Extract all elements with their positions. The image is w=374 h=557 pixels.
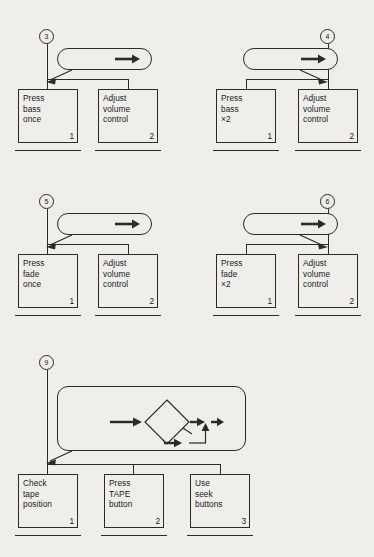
- task-box[interactable]: Use seek buttons 3: [190, 474, 250, 528]
- child-drop-line-3: [220, 464, 221, 474]
- task-label: Press fade ×2: [221, 258, 242, 290]
- task-number: 2: [155, 516, 160, 526]
- terminal-underline: [95, 150, 161, 151]
- terminal-underline: [213, 150, 279, 151]
- task-number: 1: [69, 516, 74, 526]
- parent-stem-line: [47, 370, 48, 474]
- spreader-line: [47, 79, 129, 80]
- terminal-underline: [295, 150, 361, 151]
- node-marker-9: 9: [39, 355, 54, 370]
- task-number: 1: [267, 296, 272, 306]
- plan-balloon: [243, 213, 338, 235]
- task-label: Press TAPE button: [109, 478, 132, 510]
- task-box[interactable]: Adjust volume control 2: [98, 89, 158, 143]
- terminal-underline: [295, 315, 361, 316]
- task-box[interactable]: Press bass once 1: [18, 89, 78, 143]
- task-label: Press bass ×2: [221, 93, 242, 125]
- plan-balloon: [57, 386, 246, 451]
- spreader-line: [246, 244, 328, 245]
- task-number: 1: [69, 131, 74, 141]
- terminal-underline: [95, 315, 161, 316]
- task-box[interactable]: Press fade once 1: [18, 254, 78, 308]
- plan-balloon: [57, 48, 152, 70]
- task-number: 3: [241, 516, 246, 526]
- task-label: Adjust volume control: [103, 93, 130, 125]
- child-drop-line-1: [246, 79, 247, 89]
- node-marker-6: 6: [320, 194, 335, 209]
- task-number: 2: [149, 131, 154, 141]
- parent-stem-line: [47, 44, 48, 89]
- task-label: Adjust volume control: [303, 93, 330, 125]
- child-drop-line-1: [246, 244, 247, 254]
- node-marker-5: 5: [39, 194, 54, 209]
- spreader-line: [47, 244, 129, 245]
- task-box[interactable]: Press TAPE button 2: [104, 474, 164, 528]
- task-number: 2: [349, 131, 354, 141]
- task-number: 2: [149, 296, 154, 306]
- child-drop-line-2: [133, 464, 134, 474]
- task-box[interactable]: Adjust volume control 2: [98, 254, 158, 308]
- terminal-underline: [213, 315, 279, 316]
- child-drop-line-2: [128, 79, 129, 89]
- task-label: Adjust volume control: [103, 258, 130, 290]
- child-drop-line-2: [128, 244, 129, 254]
- task-label: Press bass once: [23, 93, 44, 125]
- task-box[interactable]: Adjust volume control 2: [298, 89, 358, 143]
- plan-balloon: [57, 213, 152, 235]
- task-label: Use seek buttons: [195, 478, 223, 510]
- task-label: Adjust volume control: [303, 258, 330, 290]
- node-marker-3: 3: [39, 29, 54, 44]
- task-number: 2: [349, 296, 354, 306]
- task-box[interactable]: Press fade ×2 1: [216, 254, 276, 308]
- task-box[interactable]: Press bass ×2 1: [216, 89, 276, 143]
- terminal-underline: [15, 150, 81, 151]
- node-marker-4: 4: [320, 29, 335, 44]
- task-number: 1: [69, 296, 74, 306]
- task-label: Check tape position: [23, 478, 52, 510]
- plan-balloon: [243, 48, 338, 70]
- task-box[interactable]: Check tape position 1: [18, 474, 78, 528]
- terminal-underline: [101, 535, 167, 536]
- terminal-underline: [15, 315, 81, 316]
- spreader-line: [246, 79, 328, 80]
- task-box[interactable]: Adjust volume control 2: [298, 254, 358, 308]
- task-number: 1: [267, 131, 272, 141]
- terminal-underline: [187, 535, 253, 536]
- terminal-underline: [15, 535, 81, 536]
- parent-stem-line: [47, 209, 48, 254]
- hta-figure-page: 3 Plan 5.2: 1 2 Press bass once 1 Adjust…: [0, 0, 374, 557]
- task-label: Press fade once: [23, 258, 44, 290]
